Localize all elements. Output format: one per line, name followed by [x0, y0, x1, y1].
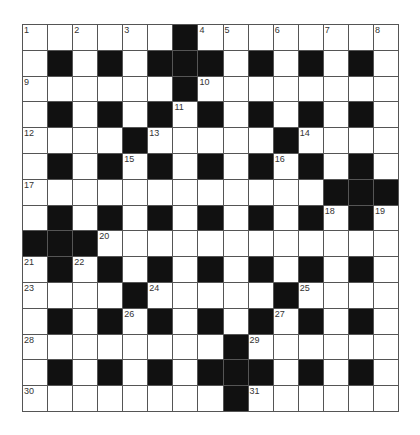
answer-cell[interactable]	[224, 309, 248, 334]
answer-cell[interactable]	[123, 335, 147, 360]
answer-cell[interactable]	[98, 335, 122, 360]
answer-cell[interactable]	[374, 154, 398, 179]
answer-cell[interactable]	[198, 128, 222, 153]
answer-cell[interactable]: 31	[249, 386, 273, 411]
answer-cell[interactable]	[73, 154, 97, 179]
answer-cell[interactable]	[374, 231, 398, 256]
answer-cell[interactable]: 15	[123, 154, 147, 179]
answer-cell[interactable]	[374, 128, 398, 153]
answer-cell[interactable]	[374, 102, 398, 127]
answer-cell[interactable]: 12	[23, 128, 47, 153]
answer-cell[interactable]: 30	[23, 386, 47, 411]
answer-cell[interactable]	[123, 360, 147, 385]
answer-cell[interactable]	[73, 283, 97, 308]
answer-cell[interactable]	[299, 180, 323, 205]
answer-cell[interactable]	[374, 283, 398, 308]
answer-cell[interactable]	[324, 231, 348, 256]
answer-cell[interactable]	[274, 257, 298, 282]
answer-cell[interactable]	[349, 335, 373, 360]
answer-cell[interactable]	[73, 77, 97, 102]
answer-cell[interactable]	[324, 102, 348, 127]
answer-cell[interactable]	[349, 386, 373, 411]
answer-cell[interactable]	[98, 25, 122, 50]
answer-cell[interactable]	[349, 283, 373, 308]
answer-cell[interactable]	[123, 180, 147, 205]
answer-cell[interactable]	[224, 231, 248, 256]
answer-cell[interactable]	[173, 309, 197, 334]
answer-cell[interactable]	[173, 257, 197, 282]
answer-cell[interactable]: 11	[173, 102, 197, 127]
answer-cell[interactable]	[173, 335, 197, 360]
answer-cell[interactable]	[198, 180, 222, 205]
answer-cell[interactable]: 18	[324, 206, 348, 231]
answer-cell[interactable]	[148, 386, 172, 411]
answer-cell[interactable]	[299, 335, 323, 360]
answer-cell[interactable]	[324, 386, 348, 411]
answer-cell[interactable]: 8	[374, 25, 398, 50]
answer-cell[interactable]: 21	[23, 257, 47, 282]
answer-cell[interactable]	[173, 206, 197, 231]
answer-cell[interactable]	[349, 128, 373, 153]
answer-cell[interactable]	[274, 335, 298, 360]
answer-cell[interactable]	[23, 206, 47, 231]
answer-cell[interactable]	[274, 386, 298, 411]
answer-cell[interactable]	[98, 386, 122, 411]
answer-cell[interactable]	[374, 335, 398, 360]
answer-cell[interactable]	[48, 25, 72, 50]
answer-cell[interactable]: 26	[123, 309, 147, 334]
answer-cell[interactable]	[274, 360, 298, 385]
answer-cell[interactable]	[148, 335, 172, 360]
answer-cell[interactable]: 1	[23, 25, 47, 50]
answer-cell[interactable]	[123, 257, 147, 282]
answer-cell[interactable]: 17	[23, 180, 47, 205]
answer-cell[interactable]	[349, 231, 373, 256]
answer-cell[interactable]	[274, 231, 298, 256]
answer-cell[interactable]	[224, 102, 248, 127]
answer-cell[interactable]	[224, 257, 248, 282]
answer-cell[interactable]	[173, 283, 197, 308]
answer-cell[interactable]	[198, 283, 222, 308]
answer-cell[interactable]	[73, 180, 97, 205]
answer-cell[interactable]	[224, 154, 248, 179]
answer-cell[interactable]	[349, 77, 373, 102]
answer-cell[interactable]: 2	[73, 25, 97, 50]
answer-cell[interactable]	[249, 283, 273, 308]
answer-cell[interactable]: 16	[274, 154, 298, 179]
answer-cell[interactable]	[299, 25, 323, 50]
answer-cell[interactable]	[73, 309, 97, 334]
answer-cell[interactable]	[173, 386, 197, 411]
answer-cell[interactable]	[98, 128, 122, 153]
answer-cell[interactable]	[299, 386, 323, 411]
answer-cell[interactable]	[374, 77, 398, 102]
answer-cell[interactable]	[374, 386, 398, 411]
answer-cell[interactable]	[249, 25, 273, 50]
answer-cell[interactable]: 20	[98, 231, 122, 256]
answer-cell[interactable]	[73, 206, 97, 231]
answer-cell[interactable]	[48, 283, 72, 308]
answer-cell[interactable]	[173, 360, 197, 385]
answer-cell[interactable]	[123, 51, 147, 76]
answer-cell[interactable]: 25	[299, 283, 323, 308]
answer-cell[interactable]: 13	[148, 128, 172, 153]
answer-cell[interactable]	[324, 77, 348, 102]
answer-cell[interactable]	[224, 283, 248, 308]
answer-cell[interactable]	[249, 128, 273, 153]
answer-cell[interactable]	[198, 231, 222, 256]
answer-cell[interactable]	[374, 360, 398, 385]
answer-cell[interactable]	[148, 77, 172, 102]
answer-cell[interactable]	[324, 51, 348, 76]
answer-cell[interactable]	[274, 51, 298, 76]
answer-cell[interactable]	[73, 102, 97, 127]
answer-cell[interactable]	[224, 51, 248, 76]
answer-cell[interactable]: 29	[249, 335, 273, 360]
answer-cell[interactable]	[73, 386, 97, 411]
answer-cell[interactable]: 10	[198, 77, 222, 102]
answer-cell[interactable]	[98, 283, 122, 308]
answer-cell[interactable]	[23, 309, 47, 334]
answer-cell[interactable]	[249, 77, 273, 102]
answer-cell[interactable]	[73, 128, 97, 153]
answer-cell[interactable]	[98, 77, 122, 102]
answer-cell[interactable]: 27	[274, 309, 298, 334]
answer-cell[interactable]	[324, 335, 348, 360]
answer-cell[interactable]	[73, 360, 97, 385]
